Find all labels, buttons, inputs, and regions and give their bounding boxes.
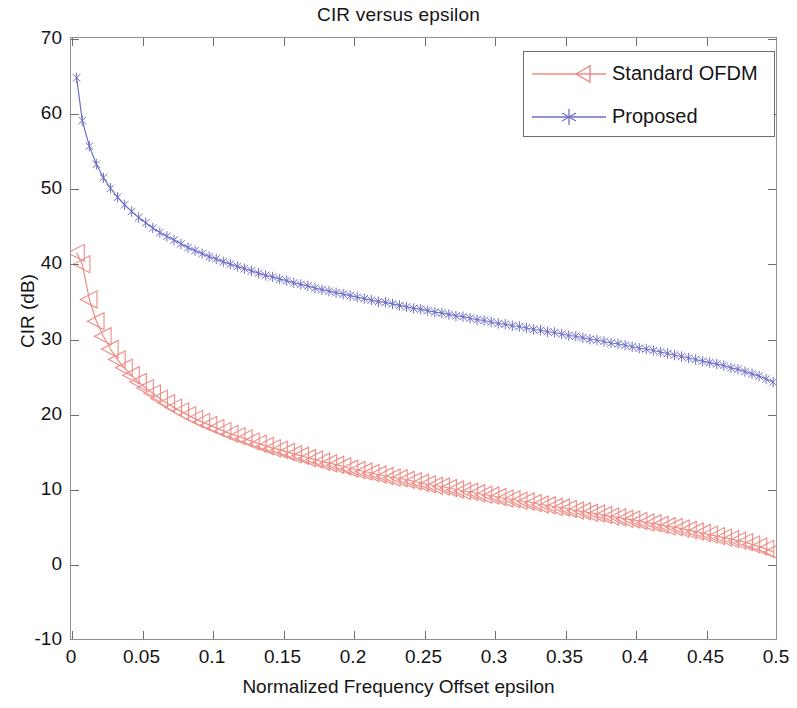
- y-tick-mark: [768, 340, 776, 341]
- legend-swatch-asterisk-icon: [530, 105, 608, 129]
- x-tick-mark: [143, 631, 144, 639]
- y-tick-mark: [71, 565, 79, 566]
- x-tick-mark: [636, 631, 637, 639]
- x-tick-mark: [566, 631, 567, 639]
- legend-label-proposed: Proposed: [612, 105, 698, 128]
- chart-title: CIR versus epsilon: [0, 4, 797, 26]
- y-tick-mark: [71, 340, 79, 341]
- y-tick-mark: [71, 189, 79, 190]
- x-tick-mark: [354, 38, 355, 46]
- x-tick-mark: [284, 631, 285, 639]
- y-tick-mark: [71, 114, 79, 115]
- y-tick-mark: [71, 415, 79, 416]
- legend-label-standard-ofdm: Standard OFDM: [612, 62, 758, 85]
- y-tick-label: 30: [41, 328, 62, 350]
- x-tick-mark: [284, 38, 285, 46]
- x-tick-label: 0.5: [763, 646, 789, 668]
- x-tick-label: 0.3: [481, 646, 507, 668]
- series-standard-ofdm: [71, 244, 776, 560]
- y-tick-label: 20: [41, 403, 62, 425]
- x-tick-mark: [143, 38, 144, 46]
- x-tick-mark: [213, 631, 214, 639]
- x-tick-label: 0.35: [546, 646, 583, 668]
- y-tick-mark: [71, 264, 79, 265]
- legend-swatch-left-triangle-icon: [530, 62, 608, 86]
- y-tick-mark: [768, 189, 776, 190]
- y-tick-label: 10: [41, 478, 62, 500]
- x-tick-mark: [707, 631, 708, 639]
- x-tick-label: 0.25: [405, 646, 442, 668]
- x-tick-mark: [354, 631, 355, 639]
- x-tick-mark: [213, 38, 214, 46]
- y-axis-label: CIR (dB): [17, 201, 39, 421]
- y-tick-label: 50: [41, 177, 62, 199]
- y-tick-label: 70: [41, 27, 62, 49]
- y-tick-mark: [71, 490, 79, 491]
- x-tick-mark: [707, 38, 708, 46]
- y-tick-label: 40: [41, 252, 62, 274]
- x-tick-mark: [495, 631, 496, 639]
- x-tick-mark: [566, 38, 567, 46]
- x-tick-mark: [425, 631, 426, 639]
- y-tick-mark: [768, 264, 776, 265]
- legend-entry-standard-ofdm: Standard OFDM: [524, 52, 774, 95]
- y-tick-mark: [768, 39, 776, 40]
- y-tick-label: 0: [51, 553, 62, 575]
- x-tick-mark: [495, 38, 496, 46]
- x-tick-label: 0.45: [687, 646, 724, 668]
- x-tick-label: 0.15: [264, 646, 301, 668]
- x-axis-label: Normalized Frequency Offset epsilon: [0, 676, 797, 698]
- x-tick-label: 0.1: [199, 646, 225, 668]
- x-tick-label: 0.4: [622, 646, 648, 668]
- x-tick-mark: [72, 631, 73, 639]
- x-tick-mark: [636, 38, 637, 46]
- y-tick-label: -10: [35, 628, 62, 650]
- x-tick-label: 0.2: [340, 646, 366, 668]
- y-tick-mark: [768, 415, 776, 416]
- x-tick-label: 0: [66, 646, 77, 668]
- y-tick-mark: [768, 565, 776, 566]
- chart-figure: CIR versus epsilon 00.050.10.150.20.250.…: [0, 0, 797, 708]
- y-tick-label: 60: [41, 102, 62, 124]
- chart-legend: Standard OFDM Proposed: [523, 51, 775, 137]
- y-tick-mark: [768, 490, 776, 491]
- x-tick-label: 0.05: [123, 646, 160, 668]
- y-tick-mark: [71, 39, 79, 40]
- x-tick-mark: [425, 38, 426, 46]
- legend-entry-proposed: Proposed: [524, 95, 774, 138]
